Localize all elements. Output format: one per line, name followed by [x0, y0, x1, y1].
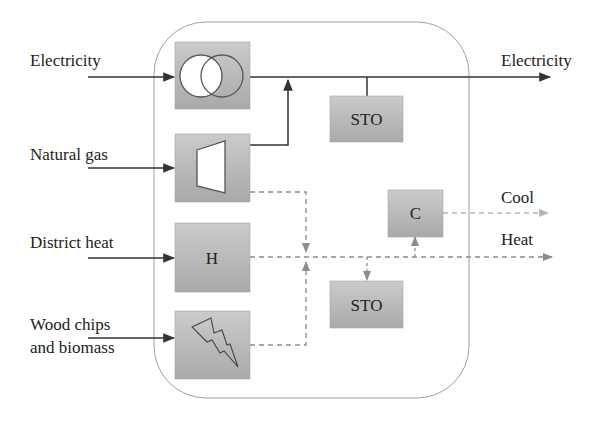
gas-turbine-component	[175, 134, 250, 202]
thermal-storage-label: STO	[351, 296, 383, 315]
district-heat-input-label: District heat	[30, 233, 114, 252]
energy-hub-diagram: H STO C STO Electricity Natural gas Dist…	[0, 0, 610, 424]
electric-flows	[88, 77, 550, 338]
biomass-boiler-component	[175, 311, 250, 379]
chiller-label: C	[410, 204, 421, 223]
electric-storage-component: STO	[330, 96, 403, 142]
turbine-to-bus-line	[250, 80, 288, 145]
wood-chips-input-label-line1: Wood chips	[30, 315, 110, 334]
heat-exchanger-component: H	[175, 223, 250, 292]
natural-gas-input-label: Natural gas	[30, 145, 108, 164]
turbine-icon	[197, 141, 225, 193]
turbine-heat-line	[250, 192, 306, 252]
chiller-component: C	[388, 190, 443, 237]
electricity-input-label: Electricity	[30, 51, 101, 70]
thermal-storage-component: STO	[330, 281, 403, 328]
cool-output-label: Cool	[501, 188, 534, 207]
heat-output-label: Heat	[501, 230, 533, 249]
transformer-component	[175, 42, 250, 109]
biomass-heat-line	[250, 262, 306, 345]
electric-storage-label: STO	[351, 110, 383, 129]
electricity-output-label: Electricity	[501, 51, 572, 70]
heat-exchanger-label: H	[206, 249, 218, 268]
wood-chips-input-label-line2: and biomass	[30, 338, 115, 357]
